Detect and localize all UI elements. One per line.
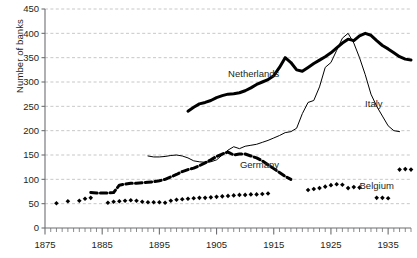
marker-point [66,199,71,204]
marker-point [266,191,271,196]
x-minor-ticks-group [45,228,411,235]
x-tick-label-1895: 1895 [149,239,170,250]
marker-point [209,195,214,200]
marker-point [134,198,139,203]
marker-point [226,194,231,199]
marker-point [83,197,88,202]
y-tick-labels-group: 050100150200250300350400450 [23,3,39,233]
marker-point [243,193,248,198]
marker-point [117,199,122,204]
marker-point [220,194,225,199]
marker-point [306,188,311,193]
marker-point [329,183,334,188]
marker-point [237,193,242,198]
y-tick-label-400: 400 [23,28,39,39]
marker-point [386,196,391,201]
marker-point [403,167,408,172]
y-tick-label-50: 50 [28,198,39,209]
marker-point [174,197,179,202]
series-label-netherlands: Netherlands [228,68,279,79]
marker-point [54,201,59,206]
marker-point [123,198,128,203]
marker-point [254,192,259,197]
marker-point [128,198,133,203]
y-tick-label-250: 250 [23,101,39,112]
marker-point [374,196,379,201]
marker-point [352,185,357,190]
marker-point [323,184,328,189]
marker-point [334,182,339,187]
series-label-germany: Germany [240,159,279,170]
marker-point [409,167,414,172]
marker-point [169,198,174,203]
marker-point [186,197,191,202]
marker-point [163,200,168,205]
x-tick-label-1935: 1935 [378,239,399,250]
x-tick-labels-group: 1875188518951905191519251935 [34,239,398,250]
x-tick-label-1925: 1925 [320,239,341,250]
y-tick-label-150: 150 [23,149,39,160]
y-tick-label-200: 200 [23,125,39,136]
series-label-belgium: Belgium [360,180,394,191]
marker-point [231,193,236,198]
marker-point [346,186,351,191]
marker-point [197,196,202,201]
marker-point [260,192,265,197]
marker-point [214,195,219,200]
series-italy [148,33,400,162]
line-chart-plot: 050100150200250300350400450 187518851895… [0,0,417,258]
marker-point [180,197,185,202]
series-line-segment [148,33,400,162]
marker-point [317,186,322,191]
marker-point [311,187,316,192]
x-tick-label-1915: 1915 [263,239,284,250]
x-tick-label-1905: 1905 [206,239,227,250]
marker-point [203,196,208,201]
marker-point [397,167,402,172]
y-tick-label-0: 0 [34,222,39,233]
marker-point [106,200,111,205]
marker-point [88,196,93,201]
marker-point [77,198,82,203]
series-label-italy: Italy [365,98,383,109]
marker-point [380,196,385,201]
y-tick-label-300: 300 [23,76,39,87]
marker-point [249,192,254,197]
x-tick-label-1875: 1875 [34,239,55,250]
y-tick-label-450: 450 [23,3,39,14]
marker-point [191,196,196,201]
axes-group [42,9,412,228]
y-tick-label-350: 350 [23,52,39,63]
x-tick-label-1885: 1885 [92,239,113,250]
y-tick-label-100: 100 [23,174,39,185]
marker-point [340,182,345,187]
chart-container: 050100150200250300350400450 187518851895… [0,0,417,258]
